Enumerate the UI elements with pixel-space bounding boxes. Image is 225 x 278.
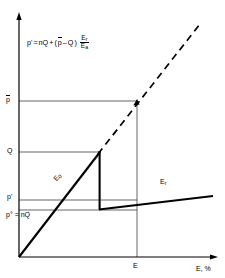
formula-annotation: p' = nQ + ( p – Q ) Er Ea [27,35,89,51]
curve-label-Er: Er [160,178,166,186]
formula-fraction: Er Ea [80,35,89,51]
formula-lhs: p' [27,38,32,47]
y-tick-label-pbar: p [6,96,10,103]
curve-Er-residual [99,196,213,210]
y-tick-label-p-prime: p' [7,193,12,200]
curve-E0-dashed-extension [98,24,200,154]
x-tick-label-E: E [133,262,138,269]
y-tick-label-Q: Q [7,147,12,154]
x-axis-label: E, % [196,265,211,272]
formula-open-paren: ( [54,38,56,47]
formula-equals: = [33,38,37,47]
formula-minus: – [63,38,67,47]
x-axis-arrowhead [210,254,218,259]
formula-pbar: p [58,38,62,47]
formula-fraction-denominator: Ea [80,42,89,50]
y-tick-label-p-zero: p° = nQ [6,211,30,218]
formula-plus: + [49,38,53,47]
formula-term1: nQ [39,38,49,47]
figure-container: p' = nQ + ( p – Q ) Er Ea p Q p' p° = nQ… [0,0,225,278]
formula-close-paren: ) [74,38,76,47]
y-axis-arrowhead [16,12,21,20]
curve-E0-loading [19,152,100,257]
formula-fraction-numerator: Er [80,35,88,42]
formula-Q: Q [68,38,74,47]
